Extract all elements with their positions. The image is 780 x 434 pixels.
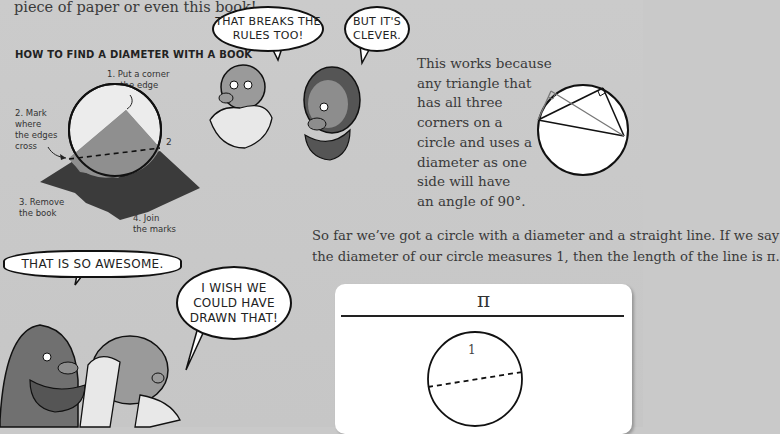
explanation-text: This works because any triangle that has… (417, 54, 552, 212)
text-line: has all three (417, 93, 552, 113)
bubble-text: BUT IT'S (353, 15, 401, 29)
text-line: corners on a (417, 113, 552, 133)
text-line: an angle of 90°. (417, 192, 552, 212)
speech-bubble-clever: BUT IT'S CLEVER. (344, 6, 410, 52)
bubble-text: I WISH WE (190, 281, 278, 296)
text-line: This works because (417, 54, 552, 74)
unit-circle-diagram (335, 284, 632, 434)
bubble-text: DRAWN THAT! (190, 311, 278, 326)
text-line: side will have (417, 172, 552, 192)
summary-text: So far we’ve got a circle with a diamete… (312, 226, 780, 267)
bubble-text: THAT BREAKS THE (215, 15, 321, 29)
pi-card: π 1 (335, 284, 632, 434)
bubble-text: RULES TOO! (215, 29, 321, 43)
bald-character-top (210, 65, 272, 148)
diameter-label: 1 (468, 343, 476, 357)
curly-hair-character-bottom (0, 325, 85, 427)
text-line: circle and uses a (417, 133, 552, 153)
arrow-head (60, 154, 66, 160)
bald-character-bottom (80, 336, 180, 427)
speech-bubble-breaks-rules: THAT BREAKS THE RULES TOO! (212, 6, 324, 52)
speech-bubble-wish: I WISH WE COULD HAVE DRAWN THAT! (176, 266, 292, 340)
text-line: diameter as one (417, 153, 552, 173)
bubble-text: COULD HAVE (190, 296, 278, 311)
speech-bubble-awesome: THAT IS SO AWESOME. (3, 250, 182, 278)
text-line: So far we’ve got a circle with a diamete… (312, 226, 780, 247)
text-line: the diameter of our circle measures 1, t… (312, 247, 780, 268)
curly-hair-character-top (304, 67, 360, 160)
bubble-text: CLEVER. (353, 29, 401, 43)
text-line: any triangle that (417, 74, 552, 94)
